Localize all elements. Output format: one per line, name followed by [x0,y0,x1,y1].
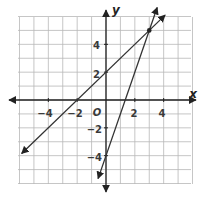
x-tick-label: −2 [67,108,82,119]
intersection-point [147,28,152,33]
y-tick-label: −4 [87,152,102,163]
line-y-equals-3x-minus-4 [98,7,157,178]
x-axis-label: x [188,87,198,101]
x-tick-label: −4 [37,108,52,119]
origin-label: O [93,107,102,118]
y-tick-label: 2 [93,69,100,80]
coordinate-plane: −4 −2 2 4 4 2 −2 −4 O x y [0,0,199,199]
x-tick-label: 2 [131,108,138,119]
tick-labels: −4 −2 2 4 4 2 −2 −4 O x y [37,3,198,163]
y-tick-label: 4 [93,40,100,51]
y-tick-label: −2 [87,124,102,135]
y-axis-label: y [112,3,121,17]
x-tick-label: 4 [159,108,166,119]
